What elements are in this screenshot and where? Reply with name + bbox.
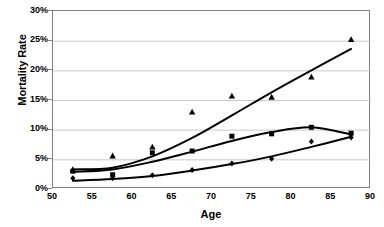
data-point <box>308 74 314 80</box>
y-tick-label: 15% <box>20 95 48 104</box>
data-point <box>309 139 314 145</box>
trend-curves <box>73 49 351 181</box>
x-tick-label: 70 <box>199 192 223 201</box>
x-axis-tick-labels: 505560657075808590 <box>0 192 384 206</box>
data-point <box>190 149 195 154</box>
y-tick-label: 5% <box>20 154 48 163</box>
y-tick-label: 25% <box>20 35 48 44</box>
x-tick-label: 90 <box>358 192 382 201</box>
x-tick-label: 65 <box>159 192 183 201</box>
data-point <box>149 144 155 150</box>
x-tick-label: 60 <box>120 192 144 201</box>
trend-curve-middle-series <box>73 127 351 172</box>
data-point <box>70 169 75 174</box>
x-tick-label: 50 <box>40 192 64 201</box>
trend-curve-upper-series <box>73 49 351 169</box>
data-point <box>150 172 155 178</box>
data-point <box>229 134 234 139</box>
data-point <box>189 109 195 115</box>
y-tick-mark <box>48 188 52 189</box>
data-point <box>190 167 195 173</box>
chart-container: Mortality Rate 0%5%10%15%20%25%30% 50556… <box>0 0 384 227</box>
gridlines <box>53 41 371 160</box>
data-point <box>309 125 314 130</box>
data-point <box>150 150 155 155</box>
data-point <box>229 160 234 166</box>
plot-area <box>52 10 370 188</box>
y-tick-label: 20% <box>20 65 48 74</box>
data-point <box>109 153 115 159</box>
data-point <box>348 36 354 42</box>
data-point <box>229 93 235 99</box>
y-tick-label: 10% <box>20 124 48 133</box>
x-tick-label: 75 <box>239 192 263 201</box>
data-point <box>269 131 274 136</box>
data-layer <box>53 11 371 189</box>
x-axis-title: Age <box>52 208 370 220</box>
x-tick-label: 80 <box>279 192 303 201</box>
x-tick-label: 85 <box>318 192 342 201</box>
y-tick-label: 30% <box>20 6 48 15</box>
x-tick-label: 55 <box>80 192 104 201</box>
